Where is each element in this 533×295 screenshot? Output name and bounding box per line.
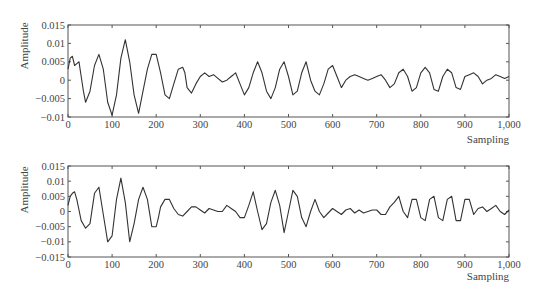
y-tick-label: 0.015 [41, 161, 65, 172]
x-tick-label: 0 [65, 119, 70, 130]
top-plot-ticks [68, 25, 509, 117]
x-tick-label: 900 [457, 259, 473, 270]
y-tick-label: 0.01 [47, 176, 65, 187]
x-tick-label: 1,000 [497, 119, 521, 130]
top-plot-y-tick-labels: 0.0150.010.0050−0.005−0.01 [35, 20, 65, 123]
y-tick-label: 0.005 [41, 191, 65, 202]
y-tick-label: 0 [60, 75, 65, 86]
x-tick-label: 900 [457, 119, 473, 130]
y-tick-label: −0.005 [35, 221, 65, 232]
x-tick-label: 400 [237, 259, 253, 270]
bottom-x-axis-label: Sampling [467, 270, 510, 282]
top-waveform-plot: 0.0150.010.0050−0.005−0.01 0100200300400… [18, 20, 521, 146]
x-tick-label: 300 [192, 119, 208, 130]
x-tick-label: 200 [148, 119, 164, 130]
top-plot-frame [68, 25, 509, 117]
waveform-figure: 0.0150.010.0050−0.005−0.01 0100200300400… [0, 0, 533, 295]
top-x-axis-label: Sampling [467, 133, 510, 145]
bottom-y-axis-label: Amplitude [18, 166, 30, 213]
y-tick-label: −0.01 [41, 236, 65, 247]
x-tick-label: 800 [413, 259, 429, 270]
x-tick-label: 400 [237, 119, 253, 130]
x-tick-label: 800 [413, 119, 429, 130]
y-tick-label: 0.015 [41, 20, 65, 31]
y-tick-label: 0.005 [41, 56, 65, 67]
bottom-plot-x-tick-labels: 01002003004005006007008009001,000 [65, 259, 520, 270]
bottom-waveform-plot: 0.0150.010.0050−0.005−0.01−0.015 0100200… [18, 161, 521, 283]
bottom-signal-line [68, 178, 509, 242]
y-tick-label: 0.01 [47, 38, 65, 49]
x-tick-label: 0 [65, 259, 70, 270]
y-tick-label: −0.005 [35, 93, 65, 104]
y-tick-label: 0 [60, 206, 65, 217]
x-tick-label: 100 [104, 119, 120, 130]
x-tick-label: 500 [281, 119, 297, 130]
x-tick-label: 500 [281, 259, 297, 270]
bottom-plot-y-tick-labels: 0.0150.010.0050−0.005−0.01−0.015 [35, 161, 65, 263]
x-tick-label: 700 [369, 259, 385, 270]
top-y-axis-label: Amplitude [18, 22, 30, 69]
y-tick-label: −0.015 [35, 252, 65, 263]
top-plot-x-tick-labels: 01002003004005006007008009001,000 [65, 119, 520, 130]
x-tick-label: 100 [104, 259, 120, 270]
top-signal-line [68, 40, 509, 116]
x-tick-label: 200 [148, 259, 164, 270]
x-tick-label: 300 [192, 259, 208, 270]
x-tick-label: 600 [325, 259, 341, 270]
x-tick-label: 1,000 [497, 259, 521, 270]
x-tick-label: 700 [369, 119, 385, 130]
y-tick-label: −0.01 [41, 112, 65, 123]
x-tick-label: 600 [325, 119, 341, 130]
